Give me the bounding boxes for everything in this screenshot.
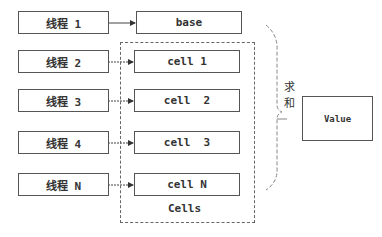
sum-label-char1: 求: [283, 80, 295, 96]
cell-box-n: cell N: [134, 173, 240, 196]
cell-box-3: cell 3: [134, 131, 240, 154]
thread-box-3: 线程 3: [18, 89, 109, 112]
thread-box-1: 线程 1: [18, 11, 109, 34]
thread-box-4: 线程 4: [18, 131, 109, 154]
base-box: base: [136, 11, 242, 34]
diagram-canvas: Cells 线程 1 线程 2 线程 3 线程 4 线程 N base cell…: [0, 0, 382, 237]
thread-box-2: 线程 2: [18, 50, 109, 73]
thread-box-n: 线程 N: [18, 173, 109, 196]
value-box: Value: [302, 96, 373, 141]
sum-brace: [266, 25, 282, 190]
cells-group-label: Cells: [168, 202, 201, 215]
cell-box-2: cell 2: [134, 89, 240, 112]
sum-label-char2: 和: [283, 96, 295, 112]
cell-box-1: cell 1: [134, 50, 240, 73]
